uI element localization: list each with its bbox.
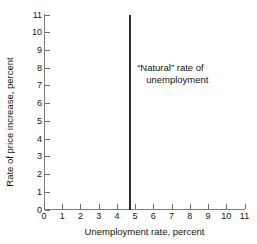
x-tick-label-7: 7: [162, 211, 182, 221]
y-tick-label-6: 6: [22, 98, 42, 108]
x-tick-label-10: 10: [216, 211, 236, 221]
y-tick-label-10: 10: [22, 27, 42, 37]
y-tick-8: [45, 68, 50, 69]
y-tick-label-3: 3: [22, 151, 42, 161]
y-tick-2: [45, 174, 50, 175]
y-tick-label-2: 2: [22, 169, 42, 179]
x-tick-label-5: 5: [125, 211, 145, 221]
y-tick-label-4: 4: [22, 134, 42, 144]
natural-rate-annotation-line1: “Natural” rate of: [137, 62, 204, 73]
y-tick-3: [45, 156, 50, 157]
x-tick-2: [80, 204, 81, 209]
y-tick-0: [45, 210, 50, 211]
y-tick-4: [45, 139, 50, 140]
x-axis-line: [44, 209, 245, 210]
x-tick-label-8: 8: [180, 211, 200, 221]
x-tick-8: [190, 204, 191, 209]
x-tick-6: [153, 204, 154, 209]
x-tick-label-9: 9: [198, 211, 218, 221]
y-tick-label-8: 8: [22, 63, 42, 73]
y-tick-label-0: 0: [22, 205, 42, 215]
y-tick-5: [45, 121, 50, 122]
y-tick-label-7: 7: [22, 80, 42, 90]
x-tick-0: [44, 204, 45, 209]
x-tick-5: [135, 204, 136, 209]
x-tick-1: [62, 204, 63, 209]
y-tick-10: [45, 32, 50, 33]
x-tick-9: [208, 204, 209, 209]
x-tick-11: [245, 204, 246, 209]
natural-rate-annotation-line2: unemployment: [137, 74, 208, 86]
x-tick-10: [226, 204, 227, 209]
y-axis-line: [44, 14, 45, 210]
y-tick-label-11: 11: [22, 10, 42, 20]
x-tick-label-6: 6: [143, 211, 163, 221]
x-tick-label-4: 4: [107, 211, 127, 221]
x-tick-7: [172, 204, 173, 209]
y-tick-label-1: 1: [22, 187, 42, 197]
natural-rate-annotation: “Natural” rate of unemployment: [137, 62, 208, 86]
y-tick-7: [45, 85, 50, 86]
y-tick-label-5: 5: [22, 116, 42, 126]
x-tick-4: [117, 204, 118, 209]
y-tick-9: [45, 50, 50, 51]
y-axis-title: Rate of price increase, percent: [4, 57, 15, 186]
x-tick-label-11: 11: [235, 211, 255, 221]
natural-rate-vertical-line: [129, 15, 131, 210]
y-tick-1: [45, 192, 50, 193]
phillips-curve-chart: 01234567891011 01234567891011 “Natural” …: [0, 0, 257, 244]
x-tick-3: [99, 204, 100, 209]
x-tick-label-3: 3: [89, 211, 109, 221]
y-tick-6: [45, 103, 50, 104]
x-tick-label-2: 2: [70, 211, 90, 221]
y-tick-11: [45, 15, 50, 16]
x-tick-label-1: 1: [52, 211, 72, 221]
y-tick-label-9: 9: [22, 45, 42, 55]
x-axis-title: Unemployment rate, percent: [44, 226, 245, 237]
